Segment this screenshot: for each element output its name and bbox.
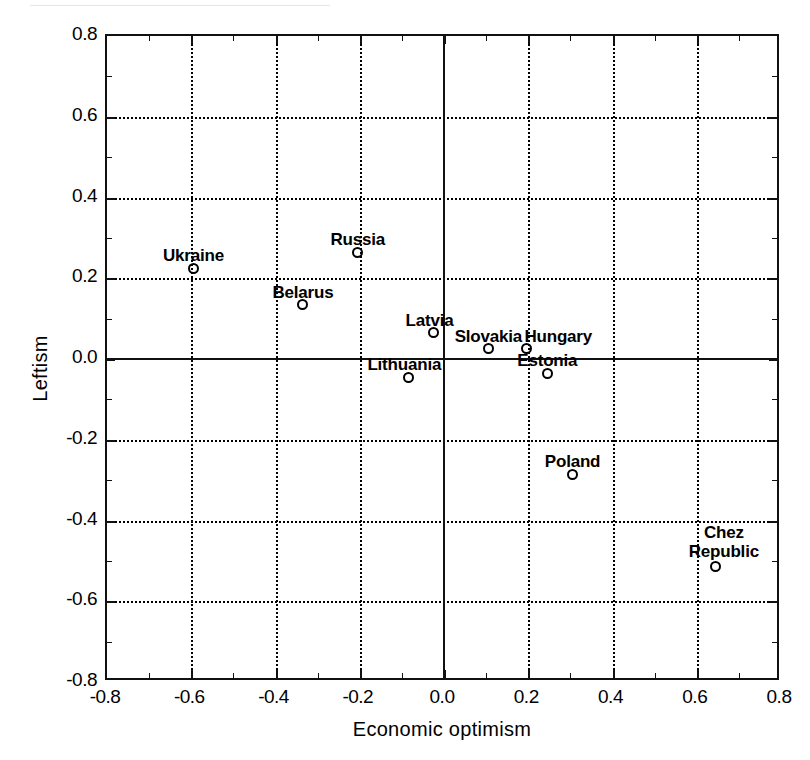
gridline-vertical — [697, 36, 699, 678]
x-axis-tick — [444, 670, 446, 678]
y-axis-tick — [107, 561, 112, 562]
y-tick-label: -0.6 — [66, 588, 97, 610]
x-axis-tick — [149, 673, 150, 678]
x-axis-tick — [233, 673, 234, 678]
x-axis-tick — [149, 36, 150, 41]
x-axis-tick — [570, 36, 571, 41]
x-axis-tick — [739, 673, 740, 678]
y-axis-tick — [769, 278, 777, 280]
y-axis-tick — [107, 359, 115, 361]
scan-artifact — [30, 5, 330, 6]
x-tick-label: 0.4 — [598, 686, 623, 708]
x-axis-tick — [655, 36, 656, 41]
y-axis-tick — [107, 642, 112, 643]
x-axis-tick — [360, 36, 362, 44]
y-axis-tick — [772, 399, 777, 400]
x-axis-tick — [655, 673, 656, 678]
x-tick-label: -0.6 — [174, 686, 205, 708]
y-axis-tick — [772, 157, 777, 158]
y-axis-tick — [772, 561, 777, 562]
x-axis-tick — [360, 670, 362, 678]
x-axis-tick — [402, 36, 403, 41]
y-axis-title: Leftism — [29, 299, 52, 439]
x-axis-tick — [191, 670, 193, 678]
x-axis-tick — [613, 36, 615, 44]
y-axis-tick — [107, 157, 112, 158]
data-point-label: Estonia — [517, 351, 577, 370]
x-axis-tick — [486, 673, 487, 678]
y-tick-label: -0.2 — [66, 427, 97, 449]
y-axis-tick — [107, 198, 115, 200]
gridline-horizontal — [107, 117, 777, 119]
data-point-label: Latvia — [406, 311, 454, 330]
x-tick-label: 0.6 — [682, 686, 707, 708]
x-axis-title: Economic optimism — [105, 718, 779, 741]
x-axis-tick — [402, 673, 403, 678]
y-axis-tick — [772, 480, 777, 481]
gridline-horizontal — [107, 601, 777, 603]
x-tick-label: 0.2 — [514, 686, 539, 708]
y-tick-label: 0.0 — [72, 346, 97, 368]
data-point-label: Poland — [545, 452, 600, 471]
data-point-label: Ukraine — [163, 246, 224, 265]
plot-area — [105, 34, 779, 680]
y-axis-tick — [769, 117, 777, 119]
x-axis-tick — [697, 36, 699, 44]
gridline-vertical — [191, 36, 193, 678]
gridline-vertical — [613, 36, 615, 678]
gridline-horizontal — [107, 198, 777, 200]
x-axis-tick — [486, 36, 487, 41]
x-axis-tick — [233, 36, 234, 41]
axis-zero-horizontal — [107, 358, 777, 360]
x-axis-tick — [570, 673, 571, 678]
data-point-label: Russia — [330, 230, 385, 249]
y-axis-tick — [769, 359, 777, 361]
y-axis-tick — [107, 117, 115, 119]
y-axis-tick — [107, 319, 112, 320]
x-tick-label: -0.4 — [258, 686, 289, 708]
x-axis-tick — [444, 36, 446, 44]
gridline-horizontal — [107, 278, 777, 280]
x-axis-tick — [191, 36, 193, 44]
gridline-vertical — [276, 36, 278, 678]
x-axis-tick — [318, 673, 319, 678]
x-tick-label: 0.8 — [767, 686, 792, 708]
x-axis-tick — [276, 36, 278, 44]
data-point-label: Belarus — [273, 283, 334, 302]
scatter-plot-figure: Economic optimism Leftism -0.8-0.6-0.4-0… — [0, 0, 810, 760]
y-axis-tick — [107, 521, 115, 523]
y-axis-tick — [772, 642, 777, 643]
y-tick-label: 0.6 — [72, 104, 97, 126]
y-axis-tick — [772, 238, 777, 239]
gridline-vertical — [360, 36, 362, 678]
y-axis-tick — [769, 440, 777, 442]
y-tick-label: -0.4 — [66, 508, 97, 530]
axis-zero-vertical — [443, 36, 445, 678]
data-point-label: Chez Republic — [669, 523, 779, 561]
y-tick-label: 0.4 — [72, 185, 97, 207]
y-tick-label: 0.2 — [72, 265, 97, 287]
y-tick-label: -0.8 — [66, 669, 97, 691]
x-axis-tick — [528, 670, 530, 678]
y-axis-tick — [107, 440, 115, 442]
y-axis-tick — [107, 238, 112, 239]
x-tick-label: -0.2 — [342, 686, 373, 708]
x-axis-tick — [318, 36, 319, 41]
y-axis-tick — [107, 480, 112, 481]
y-axis-tick — [769, 198, 777, 200]
data-point-label: Slovakia — [455, 327, 522, 346]
x-tick-label: 0.0 — [430, 686, 455, 708]
y-axis-tick — [107, 601, 115, 603]
gridline-horizontal — [107, 440, 777, 442]
y-axis-tick — [772, 319, 777, 320]
y-tick-label: 0.8 — [72, 23, 97, 45]
data-point-label: Hungary — [524, 327, 592, 346]
y-axis-tick — [769, 601, 777, 603]
x-axis-tick — [697, 670, 699, 678]
y-axis-tick — [107, 399, 112, 400]
x-axis-tick — [276, 670, 278, 678]
x-axis-tick — [613, 670, 615, 678]
x-axis-tick — [739, 36, 740, 41]
y-axis-tick — [107, 76, 112, 77]
y-axis-tick — [107, 278, 115, 280]
